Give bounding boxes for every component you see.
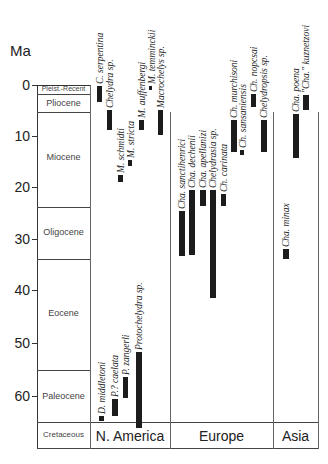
taxon-label: Protochelydra sp. [134,282,144,350]
taxon-label: P.? caelata [110,355,120,397]
region-label-asia: Asia [273,428,318,444]
epoch-label: Miocene [37,152,90,162]
epoch-label: Cretaceous [37,430,90,439]
taxon-label: M. schmidti [116,128,126,173]
taxon-label: Chelydra sp. [105,59,115,108]
region-label-north-america: N. America [90,428,170,444]
y-axis-label: Ma [10,42,31,59]
range-bar [139,120,144,130]
tick-label: 60 [4,388,30,404]
taxon-label: Macrochelys sp. [156,46,166,108]
taxon-label: C. serpentina [95,33,105,84]
range-bar [136,352,142,428]
epoch-boundary [37,370,91,371]
region-divider [90,85,91,449]
range-bar [123,377,128,398]
taxon-label: Cha. dechenii [187,135,197,188]
tick-label: 0 [4,77,30,93]
taxon-label: Cha. apellanizi [198,130,208,188]
range-bar [189,190,195,255]
epoch-label: Oligocene [37,227,90,237]
range-bar [231,120,237,152]
range-bar [200,190,206,206]
range-bar [112,399,118,416]
taxon-label: Ch. nopcsai [249,47,259,92]
epoch-boundary [37,112,91,113]
range-bar [99,416,104,421]
taxon-label: M. auffenbergi [137,62,147,118]
taxon-label: Cha. minax [281,203,291,247]
region-divider [273,112,274,449]
tick-label: 40 [4,282,30,298]
region-label-europe: Europe [170,428,273,444]
taxon-label: M. stricta [126,121,136,158]
epoch-boundary [37,259,91,260]
taxon-label: D. middletoni [97,362,107,414]
range-bar [303,95,309,110]
range-bar [158,110,163,135]
range-bar [283,249,289,259]
epoch-label: Pleist.-Recent [37,85,90,92]
range-bar [118,175,123,182]
taxon-label: Ch. sansaniensis [238,84,248,148]
tick-label: 30 [4,231,30,247]
range-bar [251,94,256,107]
range-bar [221,194,226,206]
range-bar [97,86,102,102]
taxon-label: P. zangerli [121,335,131,375]
tick-label: 20 [4,179,30,195]
range-bar [128,160,132,166]
epoch-boundary [37,94,91,95]
bottom-border [37,448,319,449]
tick-label: 10 [4,128,30,144]
range-bar [179,211,185,256]
range-bar [149,86,152,90]
epoch-label: Eocene [37,308,90,318]
range-bar [261,120,267,152]
taxon-label: Cha. poena [291,68,301,112]
cretaceous-boundary [37,422,319,423]
epoch-boundary [37,207,91,208]
epoch-label: Pliocene [37,98,90,108]
region-divider [318,112,319,449]
range-bar [240,150,244,155]
range-bar [107,110,112,130]
epoch-label: Paleocene [37,391,90,401]
taxon-label: Ch. carinata [219,144,229,192]
region-divider [170,112,171,449]
range-bar [210,190,216,298]
taxon-label: "Cha." kuznetzovi [301,25,311,93]
taxon-label: Chelydropsis sp. [259,55,269,118]
tick-label: 50 [4,335,30,351]
taxon-label: Chelydrasia sp. [208,128,218,188]
taxon-label: Cha. sanctihenrici [177,139,187,209]
range-bar [293,114,299,158]
